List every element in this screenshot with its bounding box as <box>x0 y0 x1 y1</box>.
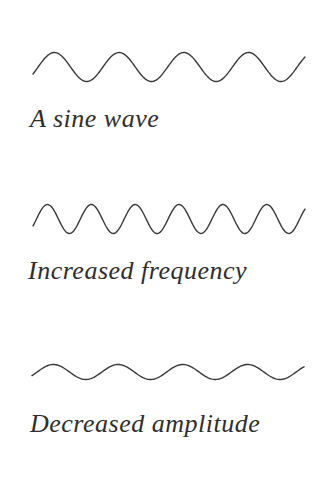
decreased-amplitude-label: Decreased amplitude <box>30 409 260 439</box>
sine-wave-label: A sine wave <box>30 104 159 134</box>
decreased-amplitude-curve <box>32 365 304 380</box>
sine-wave-diagram: A sine wave Increased frequency Decrease… <box>0 0 329 495</box>
sine-wave-curve <box>33 53 305 82</box>
increased-frequency-curve <box>33 205 305 234</box>
increased-frequency-label: Increased frequency <box>28 256 247 286</box>
